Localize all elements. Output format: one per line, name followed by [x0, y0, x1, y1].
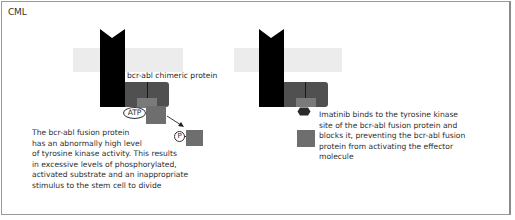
arrow-icon [166, 115, 186, 129]
membrane-band-left [73, 48, 183, 72]
caption-line: has an abnormally high level [32, 139, 188, 150]
protein-label: bcr-abl chimeric protein [127, 71, 217, 82]
right-caption: Imatinib binds to the tyrosine kinase si… [319, 110, 465, 163]
caption-line: Imatinib binds to the tyrosine kinase [319, 110, 465, 121]
receptor-icon [258, 28, 285, 108]
kinase-divider-left [147, 82, 148, 98]
hexagon-icon [297, 107, 311, 116]
atp-binding-site-right [296, 98, 316, 107]
left-caption: The bcr-abl fusion protein has an abnorm… [32, 128, 188, 192]
caption-line: molecule [319, 152, 465, 163]
caption-line: protein from activating the effector [319, 142, 465, 153]
receptor-icon [99, 28, 126, 108]
caption-line: The bcr-abl fusion protein [32, 128, 188, 139]
atp-oval: ATP [123, 107, 146, 119]
effector-molecule [297, 130, 315, 147]
substrate-block [146, 106, 166, 124]
caption-line: activated substrate and an inappropriate [32, 170, 188, 181]
membrane-band-right [234, 48, 342, 72]
caption-line: stimulus to the stem cell to divide [32, 181, 188, 192]
diagram-title: CML [8, 7, 26, 17]
caption-line: in excessive levels of phosphorylated, [32, 160, 188, 171]
caption-line: blocks it, preventing the bcr-abl fusion [319, 131, 465, 142]
kinase-divider-right [305, 82, 306, 98]
caption-line: site of the bcr-abl fusion protein and [319, 121, 465, 132]
caption-line: of tyrosine kinase activity. This result… [32, 149, 188, 160]
phosphorylated-substrate [186, 130, 203, 146]
